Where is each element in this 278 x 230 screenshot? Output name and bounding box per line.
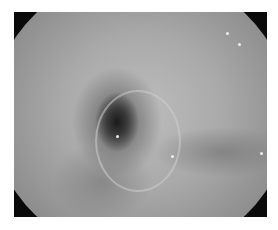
lumen-ring	[95, 90, 181, 192]
light-reflection	[226, 32, 229, 35]
light-reflection	[238, 43, 241, 46]
light-reflection	[116, 135, 119, 138]
light-reflection	[171, 155, 174, 158]
endoscopy-image	[14, 12, 267, 217]
light-reflection	[260, 152, 263, 155]
